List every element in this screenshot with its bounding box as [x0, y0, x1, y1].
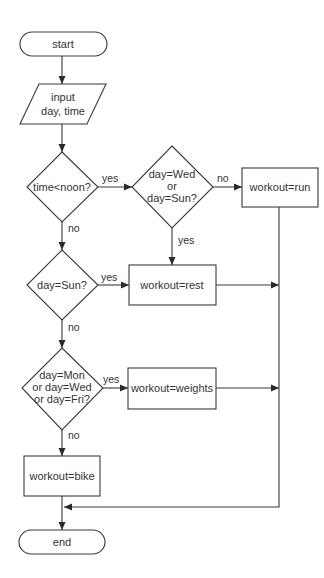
bike-box: workout=bike: [24, 456, 100, 496]
arrowhead-icon: [59, 448, 66, 456]
mwf-decision: day=Mon or day=Wed or day=Fri?: [22, 348, 103, 430]
sun-no-label: no: [68, 321, 80, 333]
wed-sun-label-line1: day=Wed: [149, 168, 196, 180]
arrowhead-icon: [234, 184, 242, 191]
weights-label: workout=weights: [130, 382, 214, 394]
time-yes-label: yes: [102, 172, 118, 184]
end-terminal: end: [19, 530, 105, 554]
arrowhead-icon: [59, 76, 66, 84]
run-box: workout=run: [242, 168, 318, 207]
mwf-label-line3: or day=Fri?: [34, 393, 90, 405]
arrowhead-icon: [124, 184, 132, 191]
end-label: end: [53, 536, 71, 548]
start-terminal: start: [20, 32, 107, 56]
input-node: input day, time: [20, 84, 106, 124]
arrowhead-icon: [169, 257, 176, 265]
wedsun-no-label: no: [217, 172, 229, 184]
arrowhead-icon: [120, 385, 128, 392]
mwf-yes-label: yes: [103, 373, 119, 385]
arrowhead-icon: [271, 385, 279, 392]
wedsun-yes-label: yes: [178, 234, 194, 246]
start-label: start: [52, 38, 73, 50]
arrowhead-icon: [121, 282, 129, 289]
arrowhead-icon: [64, 504, 72, 511]
sun-decision-label: day=Sun?: [37, 279, 87, 291]
wed-sun-label-line3: day=Sun?: [147, 192, 197, 204]
run-label: workout=run: [249, 181, 311, 193]
arrowhead-icon: [59, 242, 66, 250]
time-no-label: no: [68, 222, 80, 234]
arrowhead-icon: [59, 340, 66, 348]
rest-label: workout=rest: [139, 279, 203, 291]
wed-sun-label-line2: or: [167, 180, 177, 192]
weights-box: workout=weights: [128, 368, 216, 409]
input-label-line1: input: [51, 91, 75, 103]
flowchart: start input day, time time<noon? day=Wed…: [0, 0, 324, 578]
arrowhead-icon: [59, 144, 66, 152]
mwf-label-line1: day=Mon: [39, 369, 85, 381]
arrowhead-icon: [59, 522, 66, 530]
sun-yes-label: yes: [101, 271, 117, 283]
time-decision-label: time<noon?: [33, 181, 91, 193]
wed-sun-decision: day=Wed or day=Sun?: [132, 146, 213, 228]
arrowhead-icon: [271, 282, 279, 289]
input-label-line2: day, time: [41, 105, 85, 117]
sun-decision: day=Sun?: [27, 250, 98, 320]
bike-label: workout=bike: [28, 470, 94, 482]
time-decision: time<noon?: [27, 152, 98, 222]
flowchart-canvas: start input day, time time<noon? day=Wed…: [0, 0, 324, 578]
mwf-no-label: no: [68, 429, 80, 441]
mwf-label-line2: or day=Wed: [32, 381, 91, 393]
rest-box: workout=rest: [129, 265, 216, 305]
